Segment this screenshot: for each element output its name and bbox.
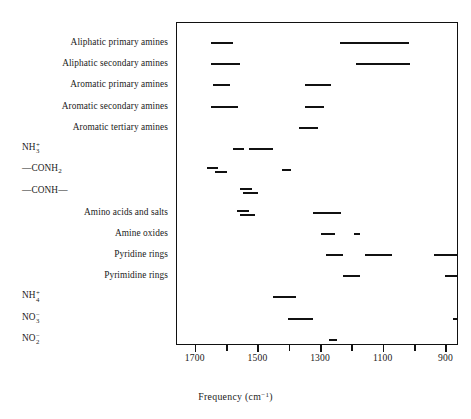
axis-tick-major xyxy=(320,345,321,352)
row-label: Aromatic tertiary amines xyxy=(73,122,168,132)
band-bar xyxy=(249,148,273,150)
band-bar xyxy=(356,63,411,65)
row-label: Aromatic secondary amines xyxy=(62,101,168,111)
x-axis-title: Frequency (cm−1) xyxy=(0,391,471,402)
row-label: Aliphatic primary amines xyxy=(71,37,168,47)
row-label: Pyridine rings xyxy=(114,249,168,259)
row-label: NO−2 xyxy=(22,333,40,346)
band-bar xyxy=(282,169,291,171)
band-bar xyxy=(365,254,392,256)
band-bar xyxy=(313,212,341,214)
band-bar xyxy=(305,84,330,86)
plot-area xyxy=(176,22,458,345)
band-bar xyxy=(326,254,343,256)
axis-tick-major xyxy=(195,345,196,352)
axis-tick-label: 1700 xyxy=(185,352,205,363)
band-bar xyxy=(445,275,458,277)
axis-tick-minor xyxy=(351,345,352,351)
band-bar xyxy=(305,106,324,108)
band-bar xyxy=(273,296,297,298)
band-bar xyxy=(329,339,337,341)
band-bar xyxy=(213,84,230,86)
band-bar xyxy=(343,275,360,277)
band-bar xyxy=(340,42,409,44)
axis-tick-major xyxy=(257,345,258,352)
axis-tick-label: 1100 xyxy=(373,352,393,363)
row-label: —CONH2 xyxy=(22,163,62,175)
axis-tick-minor xyxy=(226,345,227,351)
axis-tick-minor xyxy=(289,345,290,351)
row-label: Pyrimidine rings xyxy=(104,270,168,280)
band-bar xyxy=(207,167,218,169)
band-bar xyxy=(211,106,238,108)
row-label: NH+3 xyxy=(22,142,40,155)
axis-tick-minor xyxy=(414,345,415,351)
band-bar xyxy=(237,210,250,212)
band-bar xyxy=(233,148,244,150)
band-bar xyxy=(215,171,228,173)
axis-tick-label: 1500 xyxy=(247,352,267,363)
band-bar xyxy=(240,214,256,216)
row-label: Amine oxides xyxy=(115,228,168,238)
band-bar xyxy=(321,233,335,235)
band-bar xyxy=(211,63,239,65)
axis-tick-major xyxy=(383,345,384,352)
band-bar xyxy=(354,233,360,235)
row-label: Aromatic primary amines xyxy=(70,79,168,89)
axis-tick-labels: 1700150013001100900 xyxy=(0,352,471,368)
axis-tick-label: 1300 xyxy=(310,352,330,363)
row-label: NH+4 xyxy=(22,290,40,303)
band-bar xyxy=(299,127,318,129)
row-label: NO−3 xyxy=(22,311,40,324)
band-bar xyxy=(240,188,253,190)
band-bar xyxy=(211,42,233,44)
row-label: Aliphatic secondary amines xyxy=(62,58,168,68)
axis-tick-major xyxy=(445,345,446,352)
band-bar xyxy=(243,192,259,194)
band-bar xyxy=(434,254,457,256)
band-bar xyxy=(288,318,313,320)
ir-correlation-chart: Aliphatic primary aminesAliphatic second… xyxy=(0,0,471,419)
row-label: Amino acids and salts xyxy=(84,207,168,217)
band-bar xyxy=(453,318,458,320)
row-label: —CONH— xyxy=(22,185,68,195)
row-label-column: Aliphatic primary aminesAliphatic second… xyxy=(0,0,176,345)
axis-tick-label: 900 xyxy=(438,352,453,363)
